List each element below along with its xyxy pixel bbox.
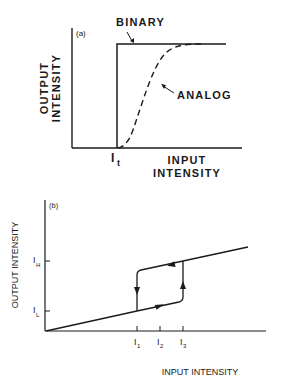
binary-label: BINARY: [116, 16, 165, 28]
analog-pointer-arrowhead-icon: [161, 84, 166, 89]
panel-b-x-label: INPUT INTENSITY: [162, 367, 238, 377]
panel-a-x-label-line2: INTENSITY: [153, 167, 221, 179]
arrow-right-icon: [155, 303, 165, 310]
threshold-label: I: [111, 151, 116, 165]
analog-label: ANALOG: [177, 89, 232, 101]
il-subscript: L: [36, 312, 40, 318]
arrow-left-icon: [166, 261, 175, 269]
panel-a-y-label-line1: OUTPUT: [38, 62, 50, 114]
upper-branch-line: [183, 247, 248, 261]
panel-b: (b) OUTPUT INTENSITY I H I L I 1 I 2 I 3: [10, 200, 266, 377]
binary-pointer: [127, 32, 132, 41]
i3-subscript: 3: [183, 343, 187, 349]
panel-a: (a) OUTPUT INTENSITY BINARY ANALOG I t I…: [38, 16, 242, 179]
threshold-subscript: t: [117, 158, 121, 168]
panel-b-y-label: OUTPUT INTENSITY: [10, 222, 20, 308]
ih-subscript: H: [36, 262, 40, 268]
panel-a-x-label-line1: INPUT: [168, 154, 207, 166]
arrow-up-icon: [180, 281, 186, 289]
hysteresis-lower-up-path: [137, 261, 183, 311]
lower-branch-line: [46, 311, 137, 331]
panel-a-y-label-line2: INTENSITY: [50, 54, 62, 122]
panel-a-tag: (a): [76, 29, 86, 38]
i1-subscript: 1: [137, 343, 141, 349]
arrow-down-icon: [134, 287, 140, 295]
hysteresis-upper-down-path: [137, 261, 183, 311]
figure: (a) OUTPUT INTENSITY BINARY ANALOG I t I…: [0, 0, 281, 385]
i2-subscript: 2: [160, 343, 164, 349]
panel-a-y-label: OUTPUT INTENSITY: [38, 54, 62, 122]
panel-b-tag: (b): [49, 201, 59, 210]
